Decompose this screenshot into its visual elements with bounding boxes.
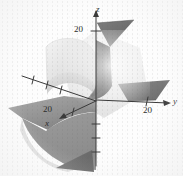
axis-z-label: z	[96, 5, 100, 14]
axis-y-tick-label-20: 20	[143, 106, 152, 115]
axis-x-tick-neg3	[60, 86, 62, 94]
figure-canvas: z 20 y 20 x 20	[0, 0, 183, 176]
axis-x-tick-label-20: 20	[43, 105, 52, 114]
axis-z-tick-label-20: 20	[74, 25, 83, 34]
axis-x-label: x	[45, 119, 49, 128]
surface-light-wash	[64, 30, 150, 110]
axis-y-arrowhead	[163, 100, 171, 106]
axis-y-label: y	[173, 97, 177, 106]
surface-plot-svg	[0, 0, 183, 176]
